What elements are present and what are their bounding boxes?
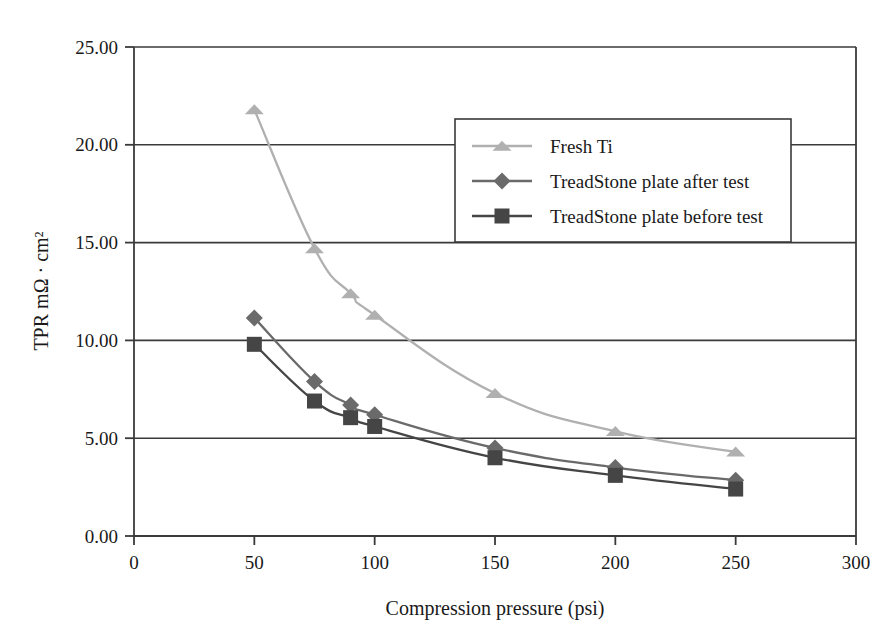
marker-square	[608, 468, 623, 483]
chart-figure: 050100150200250300 0.005.0010.0015.0020.…	[0, 0, 882, 642]
legend-item-label: TreadStone plate after test	[550, 171, 750, 192]
marker-square	[343, 410, 358, 425]
y-tick-label: 10.00	[75, 330, 118, 351]
y-tick-label: 15.00	[75, 232, 118, 253]
x-tick-label: 0	[129, 552, 139, 573]
y-tick-label: 0.00	[85, 526, 118, 547]
legend-item-label: TreadStone plate before test	[550, 206, 764, 227]
x-tick-label: 50	[245, 552, 264, 573]
y-axis-title: TPR mΩ · cm²	[30, 231, 52, 350]
x-tick-label: 300	[842, 552, 871, 573]
x-tick-label: 150	[481, 552, 510, 573]
chart-legend: Fresh TiTreadStone plate after testTread…	[455, 119, 791, 242]
x-tick-label: 100	[360, 552, 389, 573]
marker-square	[488, 450, 503, 465]
y-tick-label: 20.00	[75, 134, 118, 155]
x-axis-title: Compression pressure (psi)	[386, 597, 605, 620]
y-tick-label: 5.00	[85, 428, 118, 449]
marker-square	[367, 419, 382, 434]
marker-square	[495, 209, 510, 224]
legend-item-label: Fresh Ti	[550, 136, 613, 157]
marker-square	[247, 337, 262, 352]
chart-background	[0, 0, 882, 642]
y-tick-label: 25.00	[75, 37, 118, 58]
x-tick-label: 250	[721, 552, 750, 573]
marker-square	[728, 482, 743, 497]
marker-square	[307, 394, 322, 409]
line-chart: 050100150200250300 0.005.0010.0015.0020.…	[0, 0, 882, 642]
x-tick-label: 200	[601, 552, 630, 573]
